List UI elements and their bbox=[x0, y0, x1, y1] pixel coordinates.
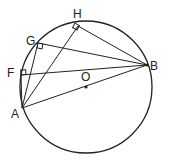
label-h: H bbox=[73, 7, 82, 21]
right-angle-h-icon bbox=[73, 23, 80, 30]
segment-gb bbox=[38, 43, 147, 65]
label-f: F bbox=[7, 66, 14, 80]
label-a: A bbox=[11, 107, 19, 121]
right-angle-g-icon bbox=[37, 43, 43, 49]
label-b: B bbox=[150, 59, 158, 73]
label-g: G bbox=[26, 34, 35, 48]
segment-af bbox=[21, 75, 22, 108]
point-b bbox=[146, 64, 149, 67]
label-o: O bbox=[81, 70, 90, 84]
point-o bbox=[84, 85, 87, 88]
geometry-diagram: A B O F G H bbox=[0, 0, 171, 161]
